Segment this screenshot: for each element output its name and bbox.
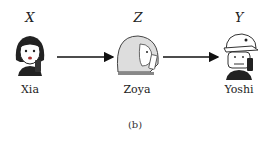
node-z-variable: Z [128, 10, 148, 25]
xia-avatar-icon [16, 36, 44, 76]
yoshi-avatar-icon [224, 34, 258, 80]
node-x-name: Xia [5, 83, 55, 96]
node-y-name: Yoshi [214, 83, 264, 96]
figure-caption: (b) [120, 119, 150, 130]
node-y-variable: Y [229, 10, 249, 25]
zoya-avatar-icon [117, 36, 158, 75]
node-x-variable: X [20, 10, 40, 25]
node-z-name: Zoya [112, 83, 162, 96]
